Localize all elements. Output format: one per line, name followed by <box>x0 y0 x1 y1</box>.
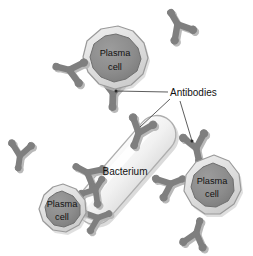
plasma-cell-bottom-left-label-line1: Plasma <box>47 199 79 209</box>
plasma-cell-top: Plasma cell <box>83 26 150 92</box>
diagram-canvas: Plasma cell Plasma cell Plasma cell <box>0 0 253 256</box>
antibodies-label: Antibodies <box>170 87 217 98</box>
antibody-free-left <box>5 139 37 175</box>
plasma-cell-top-label-line2: cell <box>108 62 122 72</box>
plasma-cell-bottom-left-label-line2: cell <box>55 212 69 222</box>
antibody-bacterium-diagram: Plasma cell Plasma cell Plasma cell <box>0 0 253 256</box>
plasma-cell-right: Plasma cell <box>184 155 243 217</box>
bacterium-label: Bacterium <box>102 166 147 177</box>
plasma-cell-top-label-line1: Plasma <box>100 48 132 58</box>
antibody-free-bottom-right <box>179 214 216 253</box>
antibody-free-top-right <box>157 3 200 48</box>
plasma-cell-right-label-line1: Plasma <box>197 176 229 186</box>
plasma-cell-right-label-line2: cell <box>205 189 219 199</box>
leader-line-to-top-cell <box>116 91 168 92</box>
leader-dot-top-cell <box>115 90 118 93</box>
leader-dot-right-cell <box>191 140 194 143</box>
